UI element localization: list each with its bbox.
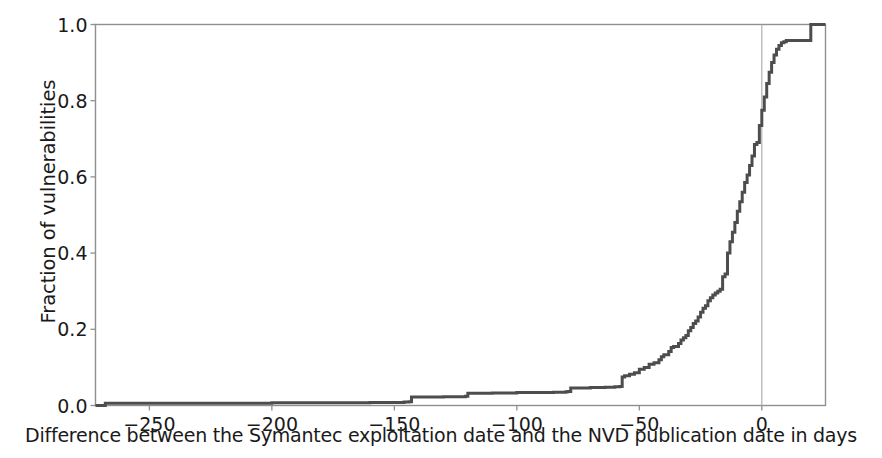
- y-tick-label: 0.0: [30, 395, 88, 417]
- y-axis-title: Fraction of vulnerabilities: [37, 37, 60, 367]
- y-tick-label: 1.0: [30, 14, 88, 36]
- chart-figure: 0.00.20.40.60.81.0 −250−200−150−100−500 …: [0, 0, 882, 458]
- y-tick-marks: [91, 25, 96, 406]
- x-axis-title: Difference between the Symantec exploita…: [0, 424, 882, 446]
- x-tick-marks: [149, 406, 761, 411]
- chart-plot-area: [0, 0, 882, 458]
- axes-frame: [96, 25, 826, 406]
